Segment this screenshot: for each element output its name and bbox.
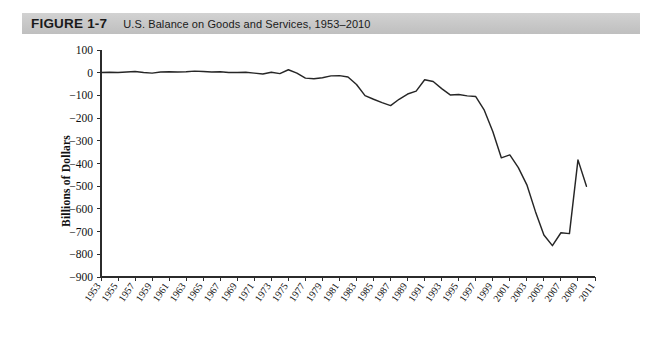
x-tick-label: 1977 [287, 281, 307, 304]
x-tick-label: 1985 [355, 281, 375, 304]
x-tick-label: 2001 [491, 281, 511, 304]
figure-title-text: U.S. Balance on Goods and Services, 1953… [123, 18, 370, 30]
line-chart-svg: 1000−100−200−300−400−500−600−700−800−900… [0, 34, 662, 339]
x-tick-label: 2007 [542, 281, 562, 304]
y-tick-label: −100 [69, 89, 93, 101]
x-tick-label: 2005 [525, 281, 545, 304]
x-axis: 1953195519571959196119631965196719691971… [82, 277, 596, 304]
x-tick-label: 1973 [253, 281, 273, 304]
y-tick-label: −200 [69, 112, 93, 124]
x-tick-label: 1995 [440, 281, 460, 304]
y-tick-label: −500 [69, 180, 93, 192]
x-tick-label: 2011 [576, 281, 596, 303]
x-tick-label: 1959 [133, 281, 153, 304]
x-tick-label: 2009 [559, 281, 579, 304]
figure-number-label: FIGURE 1-7 [31, 16, 107, 31]
x-tick-label: 1969 [218, 281, 238, 304]
x-tick-label: 1983 [338, 281, 358, 304]
x-tick-label: 1989 [389, 281, 409, 304]
x-tick-label: 1997 [457, 281, 477, 304]
x-tick-label: 1999 [474, 281, 494, 304]
y-tick-label: −400 [69, 158, 93, 170]
x-tick-label: 1963 [167, 281, 187, 304]
x-tick-label: 1979 [304, 281, 324, 304]
y-tick-label: −900 [69, 271, 93, 283]
x-tick-label: 1961 [150, 281, 170, 304]
y-tick-label: 100 [76, 44, 94, 56]
x-tick-label: 2003 [508, 281, 528, 304]
y-tick-label: −700 [69, 226, 93, 238]
x-tick-label: 1971 [235, 281, 255, 304]
x-tick-label: 1981 [321, 281, 341, 304]
figure-header-bar: FIGURE 1-7 U.S. Balance on Goods and Ser… [22, 13, 640, 34]
y-axis: 1000−100−200−300−400−500−600−700−800−900 [69, 44, 101, 283]
y-tick-label: −300 [69, 135, 93, 147]
balance-series-line [101, 70, 586, 246]
x-tick-label: 1965 [184, 281, 204, 304]
x-tick-label: 1975 [270, 281, 290, 304]
x-tick-label: 1991 [406, 281, 426, 304]
x-tick-label: 1953 [82, 281, 102, 304]
x-tick-label: 1955 [99, 281, 119, 304]
x-tick-label: 1993 [423, 281, 443, 304]
y-tick-label: −800 [69, 248, 93, 260]
y-tick-label: 0 [87, 67, 93, 79]
x-tick-label: 1967 [201, 281, 221, 304]
y-tick-label: −600 [69, 203, 93, 215]
x-tick-label: 1957 [116, 281, 136, 304]
chart-plot-area: Billions of Dollars 1000−100−200−300−400… [0, 34, 662, 339]
x-tick-label: 1987 [372, 281, 392, 304]
figure-container: FIGURE 1-7 U.S. Balance on Goods and Ser… [0, 0, 662, 339]
